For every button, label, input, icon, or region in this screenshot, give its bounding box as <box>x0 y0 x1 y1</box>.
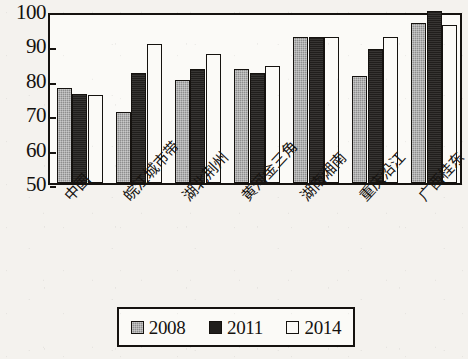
bar-group <box>57 15 103 183</box>
bar <box>309 37 324 183</box>
y-axis-tick-mark <box>50 117 56 119</box>
legend-label: 2008 <box>149 318 186 337</box>
y-axis-tick-labels: 1009080706050 <box>0 0 46 200</box>
x-axis-category-labels: 中国皖江城市带湖北荆州黄河金三角湖南湘南重庆沿江广西桂东 <box>0 185 468 290</box>
legend-entry: 2008 <box>131 318 186 337</box>
legend-swatch-icon <box>286 321 299 334</box>
bar <box>368 49 383 183</box>
y-axis-tick-label: 90 <box>2 36 46 57</box>
legend-label: 2011 <box>227 318 263 337</box>
bar <box>352 76 367 183</box>
y-axis-tick-label: 80 <box>2 71 46 92</box>
legend-swatch-icon <box>209 321 222 334</box>
y-axis-tick-label: 60 <box>2 140 46 161</box>
legend-label: 2014 <box>304 318 341 337</box>
bar <box>57 88 72 183</box>
bar <box>175 80 190 183</box>
bar <box>88 95 103 183</box>
bar-chart-figure: 1009080706050 中国皖江城市带湖北荆州黄河金三角湖南湘南重庆沿江广西… <box>0 0 468 359</box>
y-axis-tick-label: 100 <box>2 2 46 23</box>
legend-swatch-icon <box>131 321 144 334</box>
bar <box>116 112 131 183</box>
bar <box>234 69 249 183</box>
y-axis-tick-mark <box>50 48 56 50</box>
bar <box>293 37 308 183</box>
legend-entry: 2011 <box>209 318 263 337</box>
y-axis-tick-mark <box>50 152 56 154</box>
y-axis-tick-mark <box>50 83 56 85</box>
bar <box>411 23 426 183</box>
bar <box>427 11 442 183</box>
y-axis-tick-label: 70 <box>2 105 46 126</box>
chart-legend: 200820112014 <box>117 307 355 347</box>
legend-entry: 2014 <box>286 318 341 337</box>
